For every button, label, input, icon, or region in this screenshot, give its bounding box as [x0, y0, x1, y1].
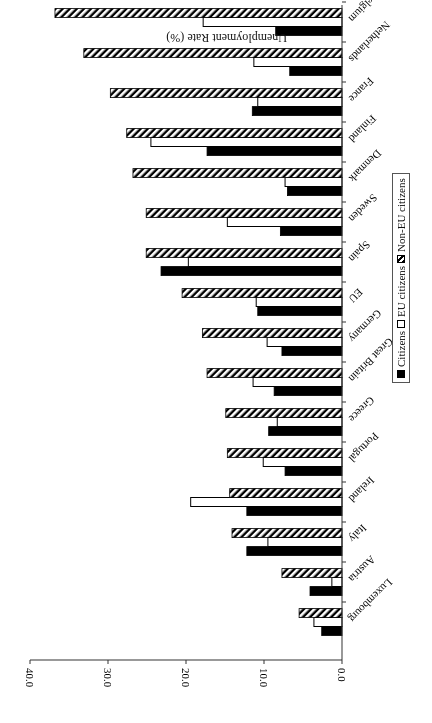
- category-label: Denmark: [346, 148, 384, 186]
- bar-non-eu-citizens-eu: [182, 289, 342, 298]
- legend-label-noneu: Non-EU citizens: [395, 178, 407, 252]
- legend-label-citizens: Citizens: [395, 331, 407, 367]
- bar-non-eu-citizens-netherlands: [84, 49, 342, 58]
- bar-non-eu-citizens-greece: [226, 409, 342, 418]
- category-label: Ireland: [346, 475, 377, 506]
- bar-citizens-sweden: [280, 227, 342, 236]
- bar-non-eu-citizens-denmark: [133, 169, 342, 178]
- bar-citizens-eu: [258, 307, 342, 316]
- x-axis-title: Unemployment Rate (%): [166, 30, 287, 45]
- bar-eu-citizens-eu: [256, 298, 342, 307]
- chart-page: LuxembourgAustriaItalyIrelandPortugalGre…: [0, 0, 432, 723]
- bar-eu-citizens-germany: [267, 338, 342, 347]
- bar-eu-citizens-netherlands: [254, 58, 342, 67]
- legend-label-eu: EU citizens: [395, 266, 407, 317]
- legend-swatch-eu: [397, 320, 405, 328]
- category-label: Sweden: [346, 192, 379, 225]
- bar-non-eu-citizens-portugal: [227, 449, 342, 458]
- bar-non-eu-citizens-great-britain: [207, 369, 342, 378]
- bar-citizens-great-britain: [274, 387, 342, 396]
- bar-eu-citizens-finland: [151, 138, 342, 147]
- category-label: Belgium: [346, 0, 382, 25]
- legend-swatch-noneu: [397, 255, 405, 263]
- bars-group: [55, 9, 342, 636]
- bar-non-eu-citizens-luxembourg: [299, 609, 342, 618]
- bar-eu-citizens-luxembourg: [314, 618, 342, 627]
- bar-citizens-finland: [207, 147, 342, 156]
- category-label: Greece: [347, 395, 378, 426]
- bar-citizens-spain: [161, 267, 342, 276]
- bar-non-eu-citizens-finland: [127, 129, 342, 138]
- category-label: France: [347, 75, 377, 105]
- bar-eu-citizens-belgium: [203, 18, 342, 27]
- category-label: Austria: [347, 554, 378, 585]
- bar-non-eu-citizens-belgium: [55, 9, 342, 18]
- bar-non-eu-citizens-spain: [146, 249, 342, 258]
- legend-swatch-citizens: [397, 370, 405, 378]
- category-label: Italy: [346, 522, 369, 545]
- bar-citizens-italy: [247, 547, 342, 556]
- category-label: Luxembourg: [346, 577, 395, 626]
- x-tick-label: 30.0: [102, 668, 114, 688]
- bar-eu-citizens-italy: [268, 538, 342, 547]
- bar-citizens-luxembourg: [322, 627, 342, 636]
- x-tick-label: 40.0: [24, 668, 36, 688]
- bar-non-eu-citizens-austria: [282, 569, 342, 578]
- bar-non-eu-citizens-ireland: [230, 489, 342, 498]
- bar-citizens-germany: [282, 347, 342, 356]
- x-tick-label: 20.0: [180, 668, 192, 688]
- bar-eu-citizens-ireland: [191, 498, 342, 507]
- bar-non-eu-citizens-france: [110, 89, 342, 98]
- bar-eu-citizens-portugal: [263, 458, 342, 467]
- bar-citizens-denmark: [287, 187, 342, 196]
- bar-non-eu-citizens-sweden: [146, 209, 342, 218]
- bar-eu-citizens-sweden: [227, 218, 342, 227]
- category-label: Finland: [346, 113, 379, 146]
- category-label: Germany: [346, 308, 384, 346]
- category-label: Spain: [346, 239, 373, 266]
- bar-non-eu-citizens-italy: [232, 529, 342, 538]
- bar-citizens-netherlands: [290, 67, 342, 76]
- category-label: EU: [347, 286, 366, 305]
- bar-citizens-portugal: [285, 467, 342, 476]
- x-tick-label: 10.0: [258, 668, 270, 688]
- bar-non-eu-citizens-germany: [202, 329, 342, 338]
- category-label: Netherlands: [347, 19, 393, 65]
- bar-eu-citizens-france: [258, 98, 342, 107]
- bar-citizens-greece: [269, 427, 342, 436]
- x-tick-label: 0.0: [336, 668, 348, 682]
- bar-citizens-austria: [310, 587, 342, 596]
- bar-eu-citizens-austria: [332, 578, 342, 587]
- bar-citizens-ireland: [247, 507, 342, 516]
- bar-citizens-france: [252, 107, 342, 116]
- bar-eu-citizens-great-britain: [253, 378, 342, 387]
- bar-eu-citizens-spain: [188, 258, 342, 267]
- category-label: Portugal: [347, 430, 382, 465]
- plot-area: LuxembourgAustriaItalyIrelandPortugalGre…: [0, 0, 432, 723]
- bar-eu-citizens-greece: [277, 418, 342, 427]
- legend: Citizens EU citizens Non-EU citizens: [392, 173, 410, 383]
- bar-eu-citizens-denmark: [285, 178, 342, 187]
- bar-chart: LuxembourgAustriaItalyIrelandPortugalGre…: [0, 0, 432, 723]
